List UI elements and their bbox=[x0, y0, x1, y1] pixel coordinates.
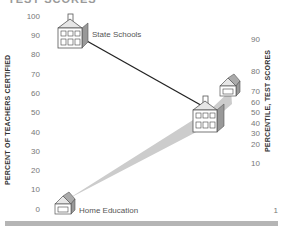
right-tick-60: 60 bbox=[246, 99, 260, 107]
home-education-house-icon bbox=[55, 192, 75, 214]
right-tick-50: 50 bbox=[246, 109, 260, 117]
left-tick-30: 30 bbox=[20, 148, 40, 156]
right-tick-90: 90 bbox=[246, 36, 260, 44]
left-axis-title: PERCENT OF TEACHERS CERTIFIED bbox=[4, 55, 11, 185]
left-tick-70: 70 bbox=[20, 71, 40, 79]
right-tick-20: 20 bbox=[246, 141, 260, 149]
left-tick-90: 90 bbox=[20, 32, 40, 40]
state-schools-line bbox=[78, 36, 206, 108]
right-small-house-icon bbox=[220, 74, 240, 96]
right-tick-40: 40 bbox=[246, 120, 260, 128]
left-tick-100: 100 bbox=[20, 13, 40, 21]
right-tick-80: 80 bbox=[246, 68, 260, 76]
right-tick-10: 10 bbox=[246, 160, 260, 168]
left-tick-40: 40 bbox=[20, 129, 40, 137]
left-tick-20: 20 bbox=[20, 167, 40, 175]
state-schools-house-icon bbox=[58, 14, 88, 48]
left-tick-50: 50 bbox=[20, 109, 40, 117]
bottom-divider-bar bbox=[5, 221, 278, 226]
left-tick-10: 10 bbox=[20, 186, 40, 194]
state-schools-label: State Schools bbox=[92, 30, 141, 39]
plot-area bbox=[0, 0, 284, 227]
home-education-label: Home Education bbox=[79, 206, 138, 215]
right-tick-70: 70 bbox=[246, 88, 260, 96]
left-tick-60: 60 bbox=[20, 90, 40, 98]
left-tick-0: 0 bbox=[20, 206, 40, 214]
left-tick-80: 80 bbox=[20, 51, 40, 59]
right-tick-30: 30 bbox=[246, 130, 260, 138]
right-tick-1: 1 bbox=[268, 207, 278, 215]
right-axis-title: PERCENTILE, TEST SCORES bbox=[264, 50, 271, 152]
